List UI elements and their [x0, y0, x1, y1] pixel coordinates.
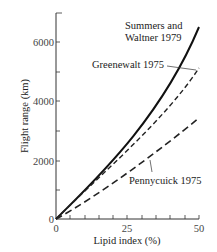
xtick-0: 0	[53, 223, 58, 234]
chart: 6000 4000 2000 0 0 25 50 Lipid index (%)…	[0, 0, 217, 252]
y-axis-label: Flight range (km)	[19, 78, 31, 153]
x-axis-label: Lipid index (%)	[93, 235, 161, 247]
xtick-25: 25	[122, 223, 133, 234]
leader-pennycuick	[150, 160, 152, 172]
label-summers-line2: Waltner 1979	[125, 32, 182, 43]
series-summers-waltner	[56, 27, 199, 219]
ytick-2000: 2000	[33, 156, 54, 167]
label-summers-line1: Summers and	[125, 20, 183, 31]
xtick-50: 50	[194, 223, 205, 234]
leader-greenewalt	[167, 66, 196, 70]
ytick-4000: 4000	[33, 96, 54, 107]
ytick-6000: 6000	[33, 37, 54, 48]
series-pennycuick	[56, 118, 199, 219]
label-greenewalt: Greenewalt 1975	[92, 59, 164, 70]
label-pennycuick: Pennycuick 1975	[129, 175, 202, 186]
y-ticks	[56, 13, 62, 190]
x-ticks	[70, 215, 199, 219]
